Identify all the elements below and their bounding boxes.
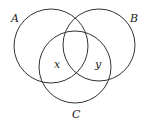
label-b: B [129, 12, 138, 25]
label-x: x [54, 58, 61, 71]
venn-diagram: A B C x y [0, 0, 149, 128]
label-a: A [10, 12, 19, 25]
label-c: C [72, 108, 81, 121]
label-y: y [94, 58, 102, 71]
circle-a [14, 9, 88, 83]
